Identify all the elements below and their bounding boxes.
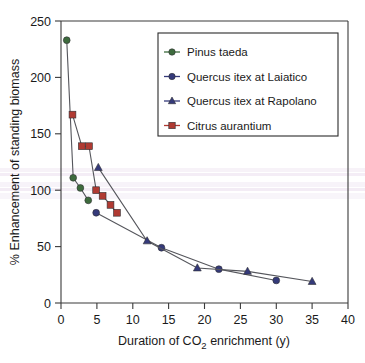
x-tick-label-25: 25 [233, 313, 247, 327]
scatter-plot-figure: 0 50 100 150 200 250 % Enhancement of st… [0, 0, 365, 363]
y-tick-label-0: 0 [44, 297, 51, 311]
x-tick-label-5: 5 [93, 313, 100, 327]
x-tick-label-0: 0 [58, 313, 65, 327]
data-point [85, 197, 92, 204]
legend-item-label: Quercus itex at Laiatico [187, 71, 307, 83]
x-tick-label-10: 10 [126, 313, 140, 327]
x-axis-title: Duration of CO2 enrichment (y) [118, 334, 290, 351]
y-tick-label-50: 50 [37, 240, 51, 254]
legend-marker-square-icon [169, 122, 175, 128]
legend-item-label: Citrus aurantium [187, 120, 271, 132]
data-point [193, 264, 201, 271]
x-axis-title-pre: Duration of CO [118, 334, 202, 348]
x-tick-label-40: 40 [341, 313, 355, 327]
data-point [69, 111, 76, 118]
legend-item-label: Pinus taeda [187, 46, 248, 58]
y-tick-label-150: 150 [30, 127, 51, 141]
data-point [78, 143, 85, 150]
series-citrus-aurantium [69, 111, 120, 216]
data-point [94, 163, 102, 170]
y-tick-label-100: 100 [30, 184, 51, 198]
data-point [107, 201, 114, 208]
x-tick-label-15: 15 [162, 313, 176, 327]
data-point [63, 37, 70, 44]
x-tick-label-35: 35 [305, 313, 319, 327]
legend-marker-circle-icon [169, 49, 175, 55]
data-point [77, 185, 84, 192]
chart-container: 0 50 100 150 200 250 % Enhancement of st… [0, 0, 365, 363]
legend-item-quercus-itex-at-rapolano[interactable]: Quercus itex at Rapolano [164, 95, 317, 107]
y-tick-group [55, 21, 61, 303]
data-point [70, 174, 77, 181]
y-tick-label-250: 250 [30, 15, 51, 29]
series-pinus-taeda [63, 37, 91, 204]
legend-item-label: Quercus itex at Rapolano [187, 95, 317, 107]
x-tick-group [61, 303, 348, 309]
data-point [114, 209, 121, 216]
y-axis-title: % Enhancement of standing biomass [8, 59, 22, 265]
y-axis: 0 50 100 150 200 250 % Enhancement of st… [8, 15, 61, 311]
data-point [93, 209, 100, 216]
series-quercus-itex-at-laiatico [93, 209, 280, 283]
x-tick-label-20: 20 [198, 313, 212, 327]
data-point [86, 143, 93, 150]
scan-artifact-bands [0, 168, 365, 199]
data-point [93, 187, 100, 194]
legend[interactable]: Pinus taedaQuercus itex at LaiaticoQuerc… [158, 33, 338, 136]
y-tick-label-200: 200 [30, 71, 51, 85]
x-tick-label-30: 30 [269, 313, 283, 327]
data-point [99, 192, 106, 199]
data-point [273, 277, 280, 284]
series-quercus-itex-at-rapolano [94, 163, 316, 284]
x-axis: 0 5 10 15 20 25 30 35 40 Duration of CO2… [58, 303, 355, 351]
x-axis-title-post: enrichment (y) [207, 334, 290, 348]
legend-marker-circle-icon [169, 73, 175, 79]
